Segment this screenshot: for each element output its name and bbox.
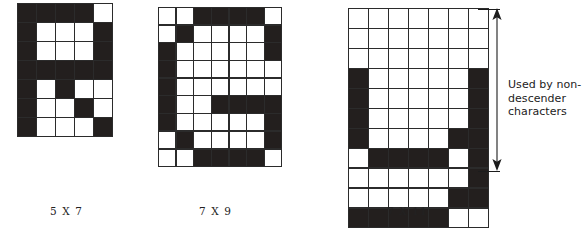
matrix-cell — [469, 109, 488, 128]
matrix-cell — [389, 129, 408, 148]
matrix-cell — [349, 169, 368, 188]
matrix-cell — [469, 89, 488, 108]
matrix-cell — [265, 132, 281, 148]
matrix-cell — [212, 79, 228, 95]
matrix-cell — [469, 149, 488, 168]
matrix-cell — [75, 118, 93, 136]
matrix-cell — [94, 4, 112, 22]
matrix-cell — [56, 61, 74, 79]
matrix-cell — [194, 96, 210, 112]
matrix-cell — [37, 23, 55, 41]
matrix-cell — [349, 29, 368, 48]
matrix-cell — [469, 29, 488, 48]
matrix-cell — [449, 29, 468, 48]
matrix-cell — [159, 79, 175, 95]
matrix-cell — [212, 132, 228, 148]
matrix-cell — [449, 49, 468, 68]
matrix-cell — [265, 150, 281, 166]
matrix-cell — [75, 61, 93, 79]
matrix-cell — [369, 29, 388, 48]
matrix-cell — [212, 61, 228, 77]
matrix-cell — [56, 99, 74, 117]
matrix-cell — [449, 89, 468, 108]
matrix-cell — [349, 89, 368, 108]
matrix-cell — [369, 109, 388, 128]
matrix-cell — [409, 29, 428, 48]
matrix-cell — [265, 26, 281, 42]
matrix-cell — [194, 132, 210, 148]
matrix-cell — [265, 96, 281, 112]
matrix-cell — [247, 79, 263, 95]
dot-matrix-grid-7x9 — [158, 7, 282, 167]
matrix-cell — [212, 8, 228, 24]
matrix-cell — [159, 61, 175, 77]
matrix-cell — [94, 99, 112, 117]
matrix-cell — [194, 150, 210, 166]
matrix-cell — [37, 61, 55, 79]
matrix-cell — [409, 169, 428, 188]
matrix-cell — [230, 96, 246, 112]
matrix-cell — [230, 8, 246, 24]
matrix-cell — [265, 79, 281, 95]
matrix-cell — [230, 150, 246, 166]
matrix-cell — [469, 49, 488, 68]
matrix-cell — [75, 23, 93, 41]
matrix-cell — [389, 109, 408, 128]
matrix-cell — [409, 69, 428, 88]
matrix-cell — [56, 80, 74, 98]
matrix-cell — [429, 129, 448, 148]
matrix-cell — [194, 114, 210, 130]
matrix-cell — [349, 129, 368, 148]
matrix-cell — [449, 209, 468, 228]
matrix-cell — [247, 43, 263, 59]
matrix-cell — [18, 42, 36, 60]
matrix-cell — [230, 114, 246, 130]
matrix-cell — [159, 150, 175, 166]
matrix-cell — [194, 8, 210, 24]
matrix-cell — [37, 99, 55, 117]
matrix-cell — [429, 149, 448, 168]
matrix-cell — [75, 4, 93, 22]
matrix-cell — [429, 209, 448, 228]
matrix-cell — [247, 96, 263, 112]
matrix-cell — [177, 150, 193, 166]
matrix-cell — [159, 114, 175, 130]
matrix-cell — [212, 114, 228, 130]
matrix-cell — [409, 149, 428, 168]
caption-7x11: 7 X 11 — [387, 205, 428, 217]
matrix-cell — [247, 26, 263, 42]
matrix-cell — [429, 169, 448, 188]
double-headed-arrow-icon — [489, 8, 505, 183]
matrix-cell — [469, 189, 488, 208]
matrix-cell — [247, 150, 263, 166]
matrix-cell — [230, 79, 246, 95]
matrix-cell — [369, 49, 388, 68]
matrix-cell — [469, 129, 488, 148]
matrix-cell — [247, 61, 263, 77]
matrix-cell — [94, 42, 112, 60]
matrix-cell — [349, 149, 368, 168]
annotation-line-1: Used by non- — [508, 78, 584, 92]
matrix-cell — [159, 43, 175, 59]
matrix-cell — [449, 129, 468, 148]
matrix-cell — [389, 49, 408, 68]
matrix-cell — [389, 9, 408, 28]
matrix-cell — [349, 49, 368, 68]
matrix-cell — [265, 61, 281, 77]
matrix-cell — [94, 61, 112, 79]
matrix-cell — [94, 118, 112, 136]
matrix-cell — [449, 189, 468, 208]
annotation-line-3: characters — [508, 105, 584, 119]
matrix-cell — [212, 43, 228, 59]
matrix-cell — [429, 89, 448, 108]
matrix-cell — [449, 169, 468, 188]
matrix-cell — [177, 26, 193, 42]
matrix-cell — [369, 169, 388, 188]
matrix-cell — [212, 96, 228, 112]
matrix-cell — [429, 189, 448, 208]
matrix-cell — [177, 43, 193, 59]
annotation-line-2: descender — [508, 92, 584, 106]
matrix-cell — [56, 4, 74, 22]
matrix-cell — [159, 96, 175, 112]
